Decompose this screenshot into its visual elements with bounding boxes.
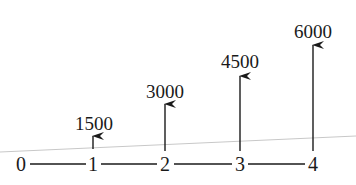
cash-flow-diagram: 0 1 2 3 4 1500 3000 4500 6000 [0,0,356,185]
guide-line [0,136,356,152]
period-label-3: 3 [235,153,245,175]
period-label-1: 1 [88,153,98,175]
amount-label-2: 3000 [146,81,184,102]
amount-label-3: 4500 [221,51,259,72]
period-label-4: 4 [308,153,318,175]
period-label-2: 2 [160,153,170,175]
amount-label-1: 1500 [75,113,113,134]
period-label-0: 0 [16,153,26,175]
amount-label-4: 6000 [294,21,332,42]
